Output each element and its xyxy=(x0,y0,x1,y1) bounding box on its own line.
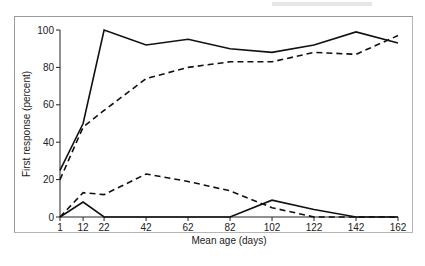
x-tick-label: 122 xyxy=(306,222,323,233)
y-tick-label: 80 xyxy=(43,62,55,73)
y-tick-label: 60 xyxy=(43,99,55,110)
x-tick-label: 1 xyxy=(57,222,63,233)
x-tick-label: 62 xyxy=(182,222,194,233)
series-solid-lower xyxy=(60,200,398,217)
x-tick-label: 42 xyxy=(141,222,153,233)
y-tick-label: 20 xyxy=(43,174,55,185)
series-lines xyxy=(60,30,398,217)
series-dashed-upper xyxy=(60,36,398,180)
axes: 02040608010011222426282102122142162 xyxy=(37,25,406,234)
y-tick-label: 0 xyxy=(48,212,54,223)
y-tick-label: 40 xyxy=(43,137,55,148)
x-tick-label: 82 xyxy=(224,222,236,233)
y-axis-title: First response (percent) xyxy=(21,71,32,177)
x-tick-label: 102 xyxy=(264,222,281,233)
x-axis-title: Mean age (days) xyxy=(191,235,266,246)
series-solid-upper xyxy=(60,30,398,170)
x-tick-label: 22 xyxy=(99,222,111,233)
series-dashed-lower xyxy=(60,174,398,217)
y-tick-label: 100 xyxy=(37,25,54,36)
x-tick-label: 162 xyxy=(390,222,407,233)
line-chart: 02040608010011222426282102122142162 Mean… xyxy=(0,0,425,266)
x-tick-label: 12 xyxy=(78,222,90,233)
x-tick-label: 142 xyxy=(348,222,365,233)
